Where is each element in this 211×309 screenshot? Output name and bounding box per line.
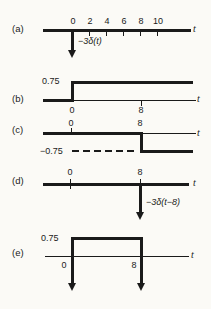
panel-a-tick-label: 4 (104, 16, 109, 26)
panel-b-signal-level (71, 81, 193, 84)
panel-a-axis-label: t (193, 24, 196, 34)
panel-e-axis-label: t (191, 250, 194, 260)
panel-c-signal-level (140, 150, 193, 153)
panel-c-axis-label: t (197, 128, 200, 138)
panel-e-tick-label: 8 (131, 260, 136, 270)
panel-b-level-label: 0.75 (42, 76, 60, 86)
panel-e-impulse-arrow (140, 237, 143, 284)
panel-d-tick (70, 179, 71, 189)
panel-d-axis (43, 183, 189, 186)
panel-a-tick (157, 32, 158, 36)
panel-a-impulse-arrow (71, 30, 74, 51)
panel-e-level-label: 0.75 (41, 233, 59, 243)
panel-a-tick-label: 8 (138, 16, 143, 26)
panel-b-axis-label: t (197, 94, 200, 104)
panel-b-tick-label: 8 (138, 105, 143, 115)
panel-c-signal-baseline (43, 132, 143, 135)
panel-a-tick (123, 32, 124, 36)
panel-a-tick-label: 0 (70, 16, 75, 26)
signal-figure: (a) t 0 2 4 6 8 10 −3δ(t) (b) 0.75 0 8 t… (0, 0, 211, 309)
panel-d-axis-label: t (193, 178, 196, 188)
panel-c-tick-label: 0 (68, 118, 73, 128)
panel-e-signal-level (71, 237, 143, 240)
panel-a-tick-label: 6 (121, 16, 126, 26)
panel-a-axis (43, 29, 191, 32)
panel-c-level-label: −0.75 (40, 146, 63, 156)
panel-d-tick-label: 8 (137, 167, 142, 177)
panel-b-signal-baseline (43, 99, 73, 102)
down-arrowhead-icon (137, 283, 145, 291)
panel-d-impulse-label: −3δ(t−8) (146, 197, 180, 207)
panel-c-tick-label: 8 (137, 118, 142, 128)
panel-c-axis (143, 133, 196, 134)
panel-c-label: (c) (12, 125, 23, 135)
panel-e-axis (45, 256, 189, 257)
down-arrowhead-icon (68, 50, 76, 58)
panel-a-label: (a) (12, 24, 24, 34)
panel-d-tick-label: 0 (67, 167, 72, 177)
panel-a-tick (140, 32, 141, 36)
panel-a-tick-label: 10 (153, 16, 163, 26)
panel-a-tick-label: 2 (87, 16, 92, 26)
panel-a-tick (106, 32, 107, 36)
panel-b-signal-step (71, 81, 74, 102)
panel-e-label: (e) (12, 248, 24, 258)
panel-a-impulse-label: −3δ(t) (78, 36, 102, 46)
panel-e-tick-label: 0 (61, 260, 66, 270)
down-arrowhead-icon (136, 212, 144, 220)
panel-d-label: (d) (12, 176, 24, 186)
down-arrowhead-icon (68, 283, 76, 291)
panel-b-tick-label: 0 (69, 105, 74, 115)
panel-c-dashed-guide (72, 150, 138, 152)
panel-d-impulse-arrow (139, 184, 142, 213)
panel-e-impulse-arrow (71, 237, 74, 284)
panel-b-label: (b) (12, 94, 24, 104)
